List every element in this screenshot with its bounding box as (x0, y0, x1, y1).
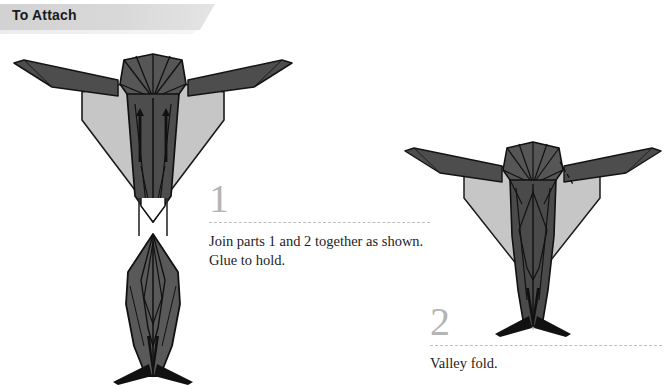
step-2-text: Valley fold. (430, 354, 662, 373)
part-2-body (126, 234, 180, 376)
part-1-head-fan (120, 54, 186, 98)
step-2-block: 2 Valley fold. (430, 305, 662, 373)
head-fan (503, 142, 563, 184)
section-banner-shadow (0, 30, 198, 34)
step-1-number: 1 (209, 182, 430, 216)
joint-notch (141, 198, 165, 222)
step-1-text: Join parts 1 and 2 together as shown. Gl… (209, 232, 430, 270)
step-2-number: 2 (430, 305, 662, 339)
section-title: To Attach (12, 7, 77, 23)
step-2-rule (430, 345, 662, 346)
step-1-block: 1 Join parts 1 and 2 together as shown. … (209, 182, 430, 270)
step-1-rule (209, 222, 430, 223)
